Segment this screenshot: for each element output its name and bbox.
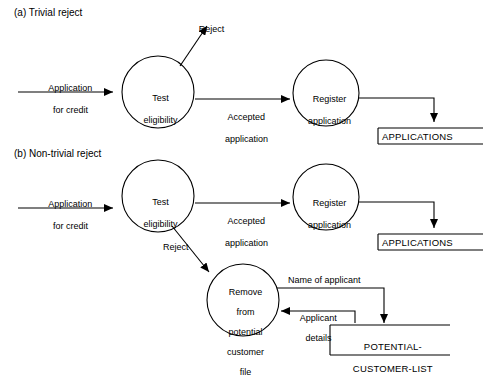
flow-line-register-to-store-b	[359, 202, 434, 228]
store-label-line1: POTENTIAL-	[364, 341, 422, 352]
flow-label-reject-a: Reject	[186, 13, 232, 35]
flow-label-line2: application	[225, 134, 268, 144]
flow-label-line1: Accepted	[227, 216, 265, 226]
flow-line-register-to-store-a	[359, 98, 434, 122]
process-label-line2: application	[308, 116, 351, 126]
store-label-potential-customer-list: POTENTIAL- CUSTOMER-LIST	[330, 330, 450, 374]
process-label-line3: potential	[228, 327, 262, 337]
flow-label-accepted-application-b: Accepted application	[208, 205, 280, 249]
process-label-line1: Test	[152, 93, 169, 103]
flow-label-line1: Accepted	[227, 112, 265, 122]
flow-label-line2: for credit	[53, 221, 88, 231]
process-label-test-eligibility-b: Test eligibility	[128, 186, 188, 230]
process-label-line1: Register	[313, 198, 347, 208]
flow-label-line1: Application	[48, 199, 92, 209]
section-caption-b: (b) Non-trivial reject	[14, 148, 101, 159]
flow-label-line1: Applicant	[300, 313, 337, 323]
flow-label-application-for-credit-a: Application for credit	[26, 72, 110, 116]
process-label-register-application-a: Register application	[294, 83, 360, 127]
flow-label-line2: for credit	[53, 105, 88, 115]
process-label-line2: eligibility	[144, 219, 178, 229]
process-label-test-eligibility-a: Test eligibility	[128, 82, 188, 126]
flow-label-line2: application	[225, 238, 268, 248]
process-label-line1: Test	[152, 197, 169, 207]
flow-label-line2: details	[306, 333, 332, 343]
store-label-applications-b: APPLICATIONS	[382, 237, 453, 248]
flow-label-accepted-application-a: Accepted application	[208, 101, 280, 145]
flow-label-application-for-credit-b: Application for credit	[26, 188, 110, 232]
process-label-line2: eligibility	[144, 115, 178, 125]
store-label-line2: CUSTOMER-LIST	[353, 363, 433, 374]
process-label-line1: Remove	[229, 287, 263, 297]
flow-label-line1: Reject	[199, 24, 225, 34]
flow-label-line1: Application	[48, 83, 92, 93]
flow-label-reject-b: Reject	[163, 242, 189, 253]
process-label-line2: from	[237, 307, 255, 317]
process-label-line1: Register	[313, 94, 347, 104]
process-label-remove-from-potential-customer-file: Remove from potential customer file	[211, 277, 275, 377]
section-caption-a: (a) Trivial reject	[14, 7, 82, 18]
process-label-line5: file	[240, 367, 252, 377]
flow-label-name-of-applicant: Name of applicant	[288, 275, 361, 286]
process-label-line2: application	[308, 220, 351, 230]
process-label-line4: customer	[227, 347, 264, 357]
store-label-applications-a: APPLICATIONS	[382, 131, 453, 142]
process-label-register-application-b: Register application	[294, 187, 360, 231]
